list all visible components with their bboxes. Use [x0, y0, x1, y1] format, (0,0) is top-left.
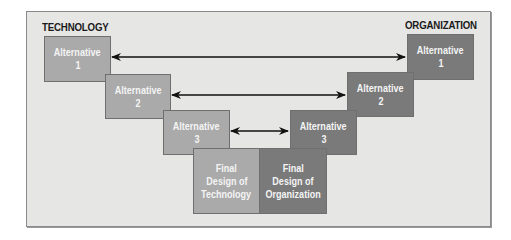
- technology-alternative-2: Alternative 2: [105, 74, 171, 119]
- box-label: Alternative: [357, 82, 404, 95]
- final-design-organization: Final Design of Organization: [259, 148, 327, 214]
- box-label: Alternative: [173, 120, 220, 133]
- final-label-line3: Organization: [265, 188, 320, 201]
- technology-alternative-1: Alternative 1: [44, 36, 111, 82]
- final-label-line1: Final: [216, 162, 237, 175]
- box-number: 2: [378, 95, 383, 108]
- box-number: 2: [135, 97, 140, 110]
- final-label-line2: Design of: [272, 175, 313, 188]
- box-label: Alternative: [54, 46, 101, 59]
- organization-alternative-1: Alternative 1: [407, 34, 474, 80]
- box-label: Alternative: [417, 44, 464, 57]
- box-label: Alternative: [300, 120, 347, 133]
- box-number: 3: [321, 133, 326, 146]
- final-label-line1: Final: [282, 162, 303, 175]
- box-number: 1: [75, 59, 80, 72]
- box-number: 3: [194, 133, 199, 146]
- final-design-technology: Final Design of Technology: [193, 148, 260, 214]
- final-label-line2: Design of: [206, 175, 247, 188]
- box-label: Alternative: [115, 84, 162, 97]
- final-label-line3: Technology: [201, 188, 251, 201]
- box-number: 1: [438, 57, 443, 70]
- organization-alternative-2: Alternative 2: [347, 72, 414, 117]
